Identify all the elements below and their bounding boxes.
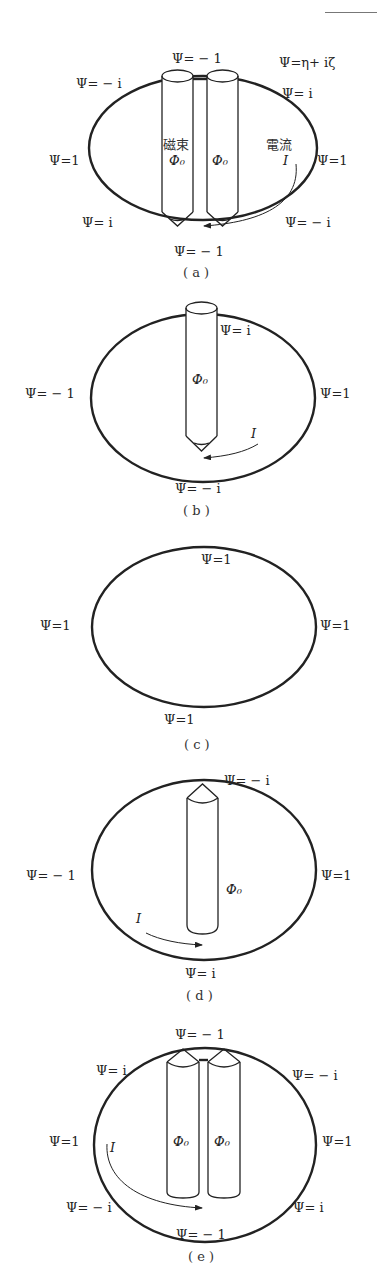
loop-ellipse-e (94, 1048, 316, 1242)
psi-label-left-d: Ψ= − 1 (26, 868, 76, 883)
psi-label-left-a: Ψ=1 (49, 153, 80, 168)
psi-label-bottom-d: Ψ= i (185, 966, 216, 981)
psi-label-bottom-a: Ψ= − 1 (174, 244, 224, 259)
psi-label-bottom-b: Ψ= − i (175, 481, 221, 496)
caption-a: ( a ) (183, 265, 209, 280)
panel-e-graphic (94, 1048, 316, 1242)
panel-d-graphic (92, 780, 316, 960)
flux-label-a2: Φ₀ (212, 153, 228, 168)
caption-e: ( e ) (188, 1249, 214, 1264)
flux-label-e2: Φ₀ (214, 1134, 230, 1149)
psi-label-lower-right-e: Ψ= i (293, 1200, 324, 1215)
psi-label-upper-right-a: Ψ= i (282, 86, 313, 101)
psi-label-upper-left-e: Ψ= i (96, 1063, 127, 1078)
current-label-b: I (251, 426, 256, 441)
psi-label-right-c: Ψ=1 (320, 618, 351, 633)
psi-label-top-e: Ψ= − 1 (175, 1027, 225, 1042)
caption-b: ( b ) (183, 503, 210, 518)
psi-label-top-d: Ψ= − i (224, 773, 270, 788)
psi-label-lower-left-e: Ψ= − i (66, 1200, 112, 1215)
psi-definition: Ψ=η+ iζ (279, 55, 335, 70)
flux-label-a1: Φ₀ (169, 153, 185, 168)
psi-label-top-c: Ψ=1 (201, 552, 232, 567)
psi-label-bottom-e: Ψ= − 1 (176, 1227, 226, 1242)
psi-label-upper-left-a: Ψ= − i (76, 76, 122, 91)
panel-c-graphic (92, 547, 316, 707)
psi-label-right-b: Ψ=1 (320, 386, 351, 401)
loop-ellipse-c (92, 547, 316, 707)
flux-label-e1: Φ₀ (173, 1134, 189, 1149)
current-label-d: I (136, 911, 141, 926)
psi-label-left-c: Ψ=1 (40, 618, 71, 633)
psi-label-top-a: Ψ= − 1 (172, 51, 222, 66)
current-label-a: I (283, 153, 288, 168)
psi-label-right-e: Ψ=1 (322, 1134, 353, 1149)
psi-label-left-b: Ψ= − 1 (25, 386, 75, 401)
psi-label-upper-right-b: Ψ= i (220, 323, 251, 338)
caption-d: ( d ) (186, 988, 213, 1003)
flux-label-d: Φ₀ (226, 882, 242, 897)
psi-label-left-e: Ψ=1 (49, 1134, 80, 1149)
psi-label-lower-left-a: Ψ= i (82, 215, 113, 230)
psi-label-upper-right-e: Ψ= − i (292, 1068, 338, 1083)
flux-label-b: Φ₀ (192, 372, 208, 387)
psi-label-right-d: Ψ=1 (321, 868, 352, 883)
psi-label-right-a: Ψ=1 (317, 153, 348, 168)
psi-label-bottom-c: Ψ=1 (164, 712, 195, 727)
panel-b-graphic (91, 302, 315, 482)
current-label-e: I (110, 1140, 115, 1155)
flux-label-jp: 磁束 (163, 134, 189, 153)
psi-label-lower-right-a: Ψ= − i (285, 215, 331, 230)
current-label-jp: 電流 (266, 134, 292, 153)
caption-c: ( c ) (184, 737, 210, 752)
